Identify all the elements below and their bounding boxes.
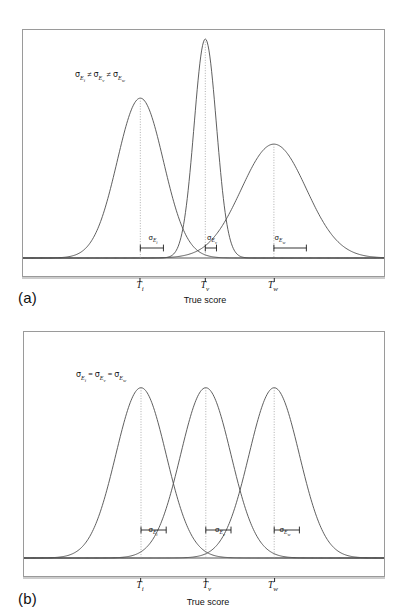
plot-frame-b <box>23 331 385 577</box>
sigma-bar-label-a-3: σEw <box>263 234 297 245</box>
sigma-bar-label-b-2: σEv <box>203 526 237 537</box>
distribution-plot-b <box>24 332 384 576</box>
sigma-bar-label-b-1: σEi <box>136 526 170 537</box>
annotation-equal-sigmas-b: σEi = σEv = σEw <box>76 370 126 383</box>
panel-letter-b: (b) <box>18 590 37 607</box>
sigma-bar-label-a-2: σEv <box>195 234 229 245</box>
sigma-bar-label-a-1: σEi <box>136 234 170 245</box>
x-axis-title-a: True score <box>135 295 275 305</box>
x-axis-ticks <box>23 577 385 587</box>
annotation-unequal-sigmas-a: σEi ≠ σEv ≠ σEw <box>75 70 125 83</box>
x-axis-ticks <box>22 277 385 287</box>
sigma-bar-label-b-3: σEw <box>268 526 302 537</box>
x-axis-title-b: True score <box>138 597 278 607</box>
panel-letter-a: (a) <box>18 289 37 306</box>
